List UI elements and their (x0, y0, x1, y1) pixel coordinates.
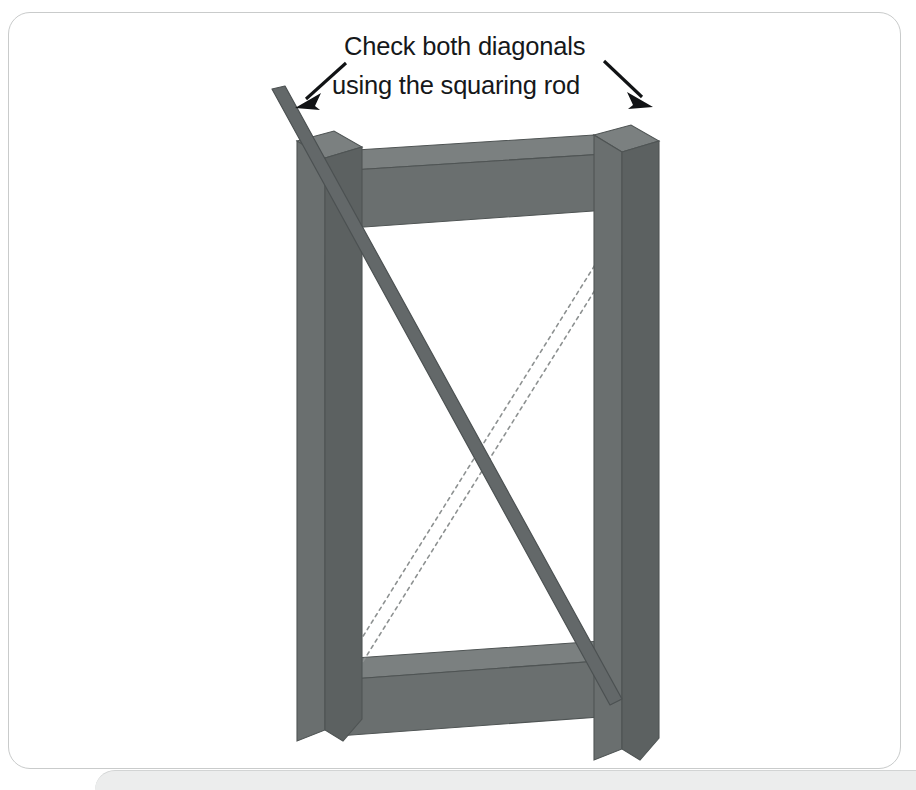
caption-line-1: Check both diagonals (344, 32, 585, 60)
screenshot-root: Check both diagonals using the squaring … (0, 0, 916, 790)
annotation-arrow-right (604, 61, 653, 109)
annotation-caption: Check both diagonals using the squaring … (332, 32, 585, 99)
left-post-front-face (297, 141, 325, 741)
frame-illustration: Check both diagonals using the squaring … (9, 13, 901, 769)
timber-frame (272, 86, 659, 760)
arrow-right-shaft (604, 61, 642, 97)
lower-background-panel (95, 770, 916, 790)
caption-line-2: using the squaring rod (332, 71, 580, 99)
diagram-card: Check both diagonals using the squaring … (8, 12, 901, 769)
right-post-side-face (622, 141, 659, 760)
